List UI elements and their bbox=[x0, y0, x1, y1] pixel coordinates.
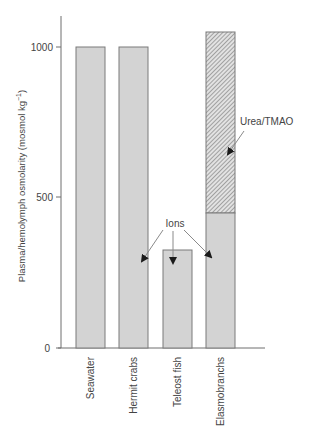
bar-elasmobranchs-urea-tmao bbox=[206, 32, 235, 213]
y-tick-label-1000: 1000 bbox=[31, 42, 54, 53]
x-label-seawater: Seawater bbox=[85, 356, 96, 399]
bar-elasmobranchs-ions bbox=[206, 213, 235, 348]
bars bbox=[76, 32, 235, 348]
annotation-urea-tmao: Urea/TMAO bbox=[228, 116, 294, 154]
bar-seawater bbox=[76, 47, 105, 348]
urea-tmao-label: Urea/TMAO bbox=[240, 116, 294, 127]
y-tick-label-0: 0 bbox=[44, 343, 50, 354]
x-axis-labels: Seawater Hermit crabs Teleost fish Elasm… bbox=[85, 356, 226, 426]
bar-teleost-fish bbox=[163, 250, 192, 348]
bar-hermit-crabs bbox=[119, 47, 148, 348]
x-label-elasmobranchs: Elasmobranchs bbox=[215, 357, 226, 426]
y-axis-label: Plasma/hemolymph osmolarity (mosmol kg−1… bbox=[15, 90, 27, 282]
osmolarity-bar-chart: 1000 500 0 Plasma/hemolymph osmolarity (… bbox=[0, 0, 312, 442]
y-axis: 1000 500 0 Plasma/hemolymph osmolarity (… bbox=[15, 16, 61, 354]
ions-label: Ions bbox=[166, 218, 185, 229]
x-label-hermit-crabs: Hermit crabs bbox=[128, 357, 139, 414]
x-label-teleost-fish: Teleost fish bbox=[172, 357, 183, 407]
y-tick-label-500: 500 bbox=[36, 192, 53, 203]
